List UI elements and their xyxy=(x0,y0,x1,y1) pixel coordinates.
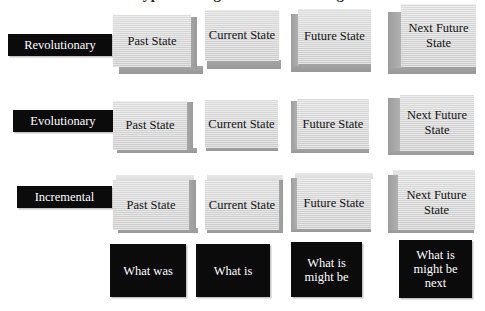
state-box-label: Next Future State xyxy=(398,175,475,230)
state-box-label: Current State xyxy=(205,180,279,230)
state-box-label: Future State xyxy=(297,99,369,149)
state-box-revolutionary-future: Future State xyxy=(291,6,377,76)
state-box-incremental-next-future: Next Future State xyxy=(388,168,483,238)
box-bottom-face xyxy=(291,63,371,72)
caption-current: What is xyxy=(196,244,270,297)
state-box-revolutionary-past: Past State xyxy=(113,12,203,74)
state-box-label: Future State xyxy=(298,9,371,64)
state-box-label: Past State xyxy=(113,180,189,230)
state-box-revolutionary-current: Current State xyxy=(205,10,285,72)
state-box-revolutionary-next-future: Next Future State xyxy=(388,2,483,80)
box-right-face xyxy=(188,180,196,230)
caption-past: What was xyxy=(110,244,186,297)
state-box-incremental-current: Current State xyxy=(205,172,287,236)
row-label-incremental: Incremental xyxy=(17,186,112,208)
state-box-evolutionary-future: Future State xyxy=(291,96,377,158)
box-right-face xyxy=(186,102,193,150)
state-box-incremental-past: Past State xyxy=(113,172,203,236)
caption-next-future: What is might be next xyxy=(399,240,472,298)
row-label-revolutionary: Revolutionary xyxy=(8,34,112,56)
row-label-evolutionary: Evolutionary xyxy=(13,110,113,132)
state-box-label: Past State xyxy=(113,101,187,150)
state-box-incremental-future: Future State xyxy=(291,170,377,236)
box-bottom-face xyxy=(207,60,281,69)
state-box-label: Past State xyxy=(113,15,191,67)
state-box-label: Current State xyxy=(205,100,278,148)
state-box-evolutionary-next-future: Next Future State xyxy=(388,92,483,162)
box-left-face xyxy=(388,12,402,68)
state-box-label: Current State xyxy=(205,10,279,61)
change-types-diagram: Types of Organisational Change Revolutio… xyxy=(0,0,485,311)
state-box-evolutionary-past: Past State xyxy=(113,98,203,156)
state-box-label: Next Future State xyxy=(401,4,476,67)
caption-future: What is might be xyxy=(291,242,362,297)
state-box-label: Future State xyxy=(297,178,371,229)
state-box-evolutionary-current: Current State xyxy=(205,98,285,156)
state-box-label: Next Future State xyxy=(400,95,474,151)
